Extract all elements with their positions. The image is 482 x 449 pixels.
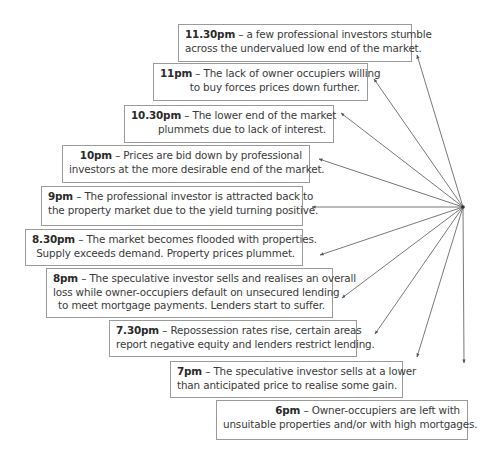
event-text-line: 11pm – The lack of owner occupiers willi… [160, 67, 360, 81]
event-box-8-30pm: 8.30pm – The market becomes flooded with… [25, 229, 303, 266]
event-text-line: to meet mortgage payments. Lenders start… [53, 299, 325, 313]
event-text-line: 10.30pm – The lower end of the market [131, 109, 326, 123]
arrow-11pm [374, 79, 463, 207]
event-box-11-30pm: 11.30pm – a few professional investors s… [178, 24, 412, 62]
event-time: 7pm [177, 365, 202, 377]
event-separator: – [181, 109, 192, 121]
event-time: 8.30pm [32, 233, 75, 245]
event-text-line: 7.30pm – Repossession rates rise, certai… [116, 324, 349, 338]
event-text-line: 7pm – The speculative investor sells at … [177, 365, 395, 379]
event-text-line: 8.30pm – The market becomes flooded with… [32, 233, 295, 247]
event-box-10pm: 10pm – Prices are bid down by profession… [62, 145, 310, 183]
event-time: 11.30pm [185, 28, 235, 40]
event-text-line: investors at the more desirable end of t… [69, 163, 302, 177]
event-text-line: loss while owner-occupiers default on un… [53, 286, 325, 300]
event-time: 8pm [53, 272, 78, 284]
event-separator: – [202, 365, 213, 377]
arrow-6pm [463, 207, 464, 363]
event-text-line: plummets due to lack of interest. [131, 123, 326, 137]
event-time: 10.30pm [131, 109, 181, 121]
event-separator: – [78, 272, 89, 284]
arrow-8-30pm [320, 207, 463, 255]
event-description: Owner-occupiers are left with [312, 404, 460, 416]
arrow-11-30pm [417, 55, 463, 207]
event-text-line: the property market due to the yield tur… [48, 204, 295, 218]
event-separator: – [112, 149, 123, 161]
event-separator: – [75, 233, 86, 245]
event-description: a few professional investors stumble [246, 28, 431, 40]
event-box-7pm: 7pm – The speculative investor sells at … [170, 361, 403, 398]
event-description: The speculative investor sells and reali… [89, 272, 356, 284]
event-separator: – [300, 404, 311, 416]
event-time: 7.30pm [116, 324, 159, 336]
event-separator: – [192, 67, 203, 79]
event-box-11pm: 11pm – The lack of owner occupiers willi… [153, 63, 368, 101]
event-description: The lack of owner occupiers willing [203, 67, 380, 79]
event-text-line: 8pm – The speculative investor sells and… [53, 272, 325, 286]
arrow-7-30pm [375, 207, 463, 334]
event-separator: – [235, 28, 246, 40]
event-time: 6pm [275, 404, 300, 416]
event-text-line: 9pm – The professional investor is attra… [48, 190, 295, 204]
arrow-10pm [319, 159, 463, 207]
event-description: Repossession rates rise, certain areas [170, 324, 361, 336]
event-text-line: 6pm – Owner-occupiers are left with [223, 404, 460, 418]
event-box-9pm: 9pm – The professional investor is attra… [41, 186, 303, 226]
event-time: 11pm [160, 67, 192, 79]
event-text-line: 11.30pm – a few professional investors s… [185, 28, 404, 42]
arrow-7pm [417, 207, 463, 357]
event-text-line: Supply exceeds demand. Property prices p… [32, 247, 295, 261]
event-description: The professional investor is attracted b… [84, 190, 313, 202]
event-text-line: 10pm – Prices are bid down by profession… [69, 149, 302, 163]
arrow-8pm [342, 207, 463, 298]
event-time: 9pm [48, 190, 73, 202]
event-description: Prices are bid down by professional [123, 149, 302, 161]
arrow-10-30pm [341, 113, 463, 207]
event-description: The market becomes flooded with properti… [86, 233, 316, 245]
event-text-line: report negative equity and lenders restr… [116, 338, 349, 352]
event-box-8pm: 8pm – The speculative investor sells and… [46, 268, 333, 318]
event-text-line: than anticipated price to realise some g… [177, 379, 395, 393]
event-box-7-30pm: 7.30pm – Repossession rates rise, certai… [109, 320, 357, 357]
origin-point [461, 205, 465, 209]
event-description: The speculative investor sells at a lowe… [213, 365, 416, 377]
radial-timeline-diagram: 11.30pm – a few professional investors s… [0, 0, 482, 449]
event-text-line: across the undervalued low end of the ma… [185, 42, 404, 56]
event-text-line: unsuitable properties and/or with high m… [223, 418, 460, 432]
event-description: The lower end of the market [192, 109, 336, 121]
event-box-6pm: 6pm – Owner-occupiers are left withunsui… [216, 400, 468, 440]
event-text-line: to buy forces prices down further. [160, 81, 360, 95]
event-time: 10pm [80, 149, 112, 161]
event-separator: – [73, 190, 84, 202]
event-separator: – [159, 324, 170, 336]
event-box-10-30pm: 10.30pm – The lower end of the marketplu… [124, 105, 334, 143]
